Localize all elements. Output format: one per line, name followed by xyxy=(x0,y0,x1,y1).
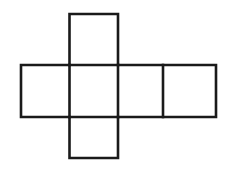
face-front xyxy=(70,65,119,117)
figure-canvas xyxy=(0,0,237,171)
face-top xyxy=(70,14,119,65)
face-back xyxy=(163,65,216,117)
face-bottom xyxy=(70,117,119,158)
cube-net-diagram xyxy=(0,0,237,171)
face-right xyxy=(118,65,163,117)
face-left xyxy=(21,65,70,117)
